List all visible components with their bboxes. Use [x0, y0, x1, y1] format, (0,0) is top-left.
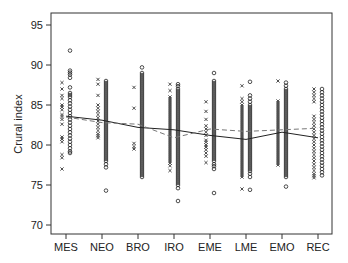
x-marker — [204, 110, 207, 113]
y-axis-label: Crural index — [12, 94, 24, 154]
o-marker — [104, 189, 108, 193]
o-marker — [68, 86, 72, 90]
x-marker — [132, 142, 135, 145]
x-marker — [96, 83, 99, 86]
x-marker — [60, 167, 63, 170]
x-marker — [204, 131, 207, 134]
x-marker — [96, 110, 99, 113]
x-tick-label: IRO — [164, 241, 184, 253]
x-marker — [240, 175, 243, 178]
x-marker — [60, 156, 63, 159]
x-marker — [312, 163, 315, 166]
x-marker — [60, 87, 63, 90]
x-marker — [204, 124, 207, 127]
x-marker — [312, 124, 315, 127]
x-marker — [60, 118, 63, 121]
scatter-chart: 707580859095 MESNEOBROIROEMELMEEMOREC Cr… — [0, 0, 348, 263]
y-tick-label: 85 — [31, 99, 43, 111]
x-marker — [96, 129, 99, 132]
x-marker — [96, 113, 99, 116]
x-tick-label: EME — [198, 241, 222, 253]
x-marker — [312, 153, 315, 156]
x-marker — [312, 169, 315, 172]
y-tick-label: 70 — [31, 219, 43, 231]
y-tick-label: 95 — [31, 19, 43, 31]
x-marker — [312, 121, 315, 124]
x-tick-label: EMO — [269, 241, 295, 253]
x-marker — [204, 151, 207, 154]
x-marker — [168, 89, 171, 92]
y-tick-label: 75 — [31, 179, 43, 191]
x-tick-label: REC — [306, 241, 329, 253]
x-marker — [312, 156, 315, 159]
x-marker — [96, 116, 99, 119]
x-marker — [312, 140, 315, 143]
x-marker — [312, 131, 315, 134]
o-marker — [284, 185, 288, 189]
x-marker — [96, 107, 99, 110]
x-marker — [312, 118, 315, 121]
x-marker — [60, 108, 63, 111]
x-marker — [96, 126, 99, 129]
x-marker — [312, 166, 315, 169]
x-marker — [312, 91, 315, 94]
o-marker — [212, 191, 216, 195]
x-marker — [312, 143, 315, 146]
x-marker — [312, 97, 315, 100]
x-marker — [240, 84, 243, 87]
x-marker — [240, 187, 243, 190]
x-marker — [168, 169, 171, 172]
x-marker — [312, 147, 315, 150]
y-tick-label: 90 — [31, 59, 43, 71]
x-marker — [312, 94, 315, 97]
x-marker — [168, 83, 171, 86]
x-axis: MESNEOBROIROEMELMEEMOREC — [54, 234, 330, 253]
x-marker — [60, 81, 63, 84]
o-marker — [212, 71, 216, 75]
x-marker — [276, 163, 279, 166]
x-marker — [96, 94, 99, 97]
x-marker — [204, 118, 207, 121]
x-tick-label: LME — [235, 241, 258, 253]
x-marker — [204, 100, 207, 103]
o-marker — [140, 66, 144, 70]
x-marker — [60, 123, 63, 126]
x-marker — [312, 159, 315, 162]
x-tick-label: MES — [54, 241, 78, 253]
y-axis: 707580859095 — [31, 19, 51, 231]
x-marker — [312, 115, 315, 118]
o-marker — [248, 80, 252, 84]
x-marker — [96, 103, 99, 106]
x-marker — [312, 87, 315, 90]
x-marker — [312, 100, 315, 103]
x-marker — [204, 148, 207, 151]
trend-lines — [66, 116, 318, 139]
x-marker — [132, 107, 135, 110]
o-marker — [248, 188, 252, 192]
x-marker — [204, 161, 207, 164]
solid-trend-line — [66, 116, 318, 139]
x-marker — [60, 97, 63, 100]
x-marker — [276, 79, 279, 82]
x-marker — [312, 150, 315, 153]
o-marker — [68, 49, 72, 53]
x-marker — [96, 136, 99, 139]
x-marker — [96, 78, 99, 81]
x-marker — [132, 86, 135, 89]
x-marker — [312, 176, 315, 179]
x-marker — [60, 140, 63, 143]
x-marker — [60, 153, 63, 156]
x-marker — [96, 123, 99, 126]
x-tick-label: NEO — [90, 241, 114, 253]
x-marker — [132, 147, 135, 150]
o-marker — [176, 199, 180, 203]
x-marker — [60, 94, 63, 97]
plot-frame — [51, 13, 332, 234]
x-marker — [240, 100, 243, 103]
x-marker — [240, 97, 243, 100]
data-points — [60, 49, 323, 203]
y-tick-label: 80 — [31, 139, 43, 151]
x-marker — [204, 155, 207, 158]
x-marker — [168, 164, 171, 167]
x-tick-label: BRO — [126, 241, 150, 253]
